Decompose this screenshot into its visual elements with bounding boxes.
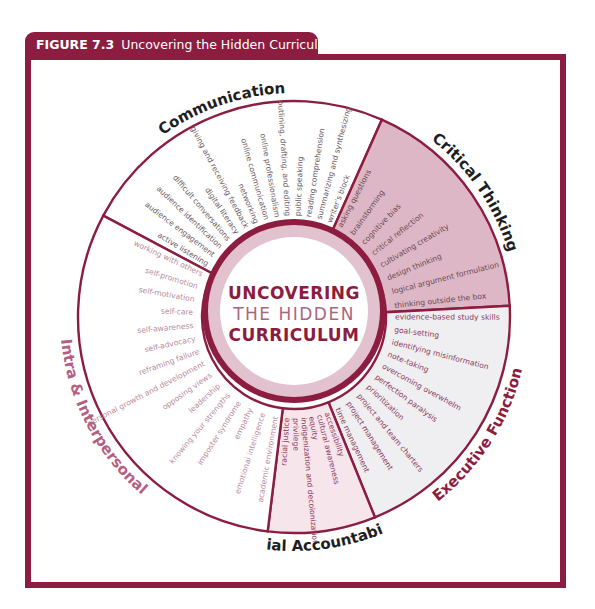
skill-item: evidence-based study skills bbox=[395, 312, 500, 321]
center-title-line-2: THE HIDDEN bbox=[232, 304, 355, 324]
skill-item: privilege bbox=[291, 418, 300, 451]
center-title-line-1: UNCOVERING bbox=[228, 283, 360, 303]
skill-item: self-care bbox=[161, 307, 194, 317]
center-hub: UNCOVERING THE HIDDEN CURRICULUM bbox=[202, 219, 386, 403]
center-title-line-3: CURRICULUM bbox=[228, 325, 359, 345]
curriculum-wheel-diagram: active listeningaudience engagementaudie… bbox=[0, 0, 595, 609]
